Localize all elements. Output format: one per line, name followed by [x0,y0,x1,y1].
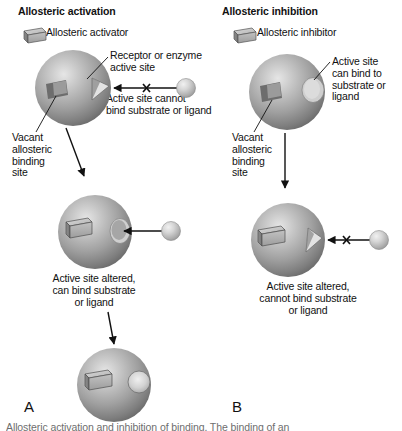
panel-a-receptor-unbound [35,50,111,126]
panel-b-receptor-unbound [249,54,325,130]
panel-a-bound-activator-2 [85,370,112,390]
panel-a-activator-icon [24,28,46,43]
panel-a-transition-arrow-1 [66,128,84,176]
panel-a-receptor-activated [58,195,132,269]
panel-a-bound-ligand [128,371,150,393]
panel-a-ligand-sphere [177,79,196,98]
panel-b-bound-inhibitor [258,226,285,246]
panel-b-inhibitor-icon [234,28,256,43]
panel-a-bound-activator [66,218,92,238]
panel-a-ligand-blocked [114,79,196,98]
panel-a-ligand-binding [124,222,181,241]
panel-a-receptor-bound-complex [77,348,151,422]
allosteric-regulation-figure: Allosteric activation Allosteric inhibit… [0,0,402,431]
panel-a-transition-arrow-2 [108,312,114,344]
figure-artwork [0,0,402,431]
panel-a-ligand-sphere-2 [162,222,181,241]
panel-b-ligand-sphere [370,231,389,250]
panel-b-ligand-blocked [328,231,389,250]
panel-b-receptor-inhibited [251,203,325,277]
